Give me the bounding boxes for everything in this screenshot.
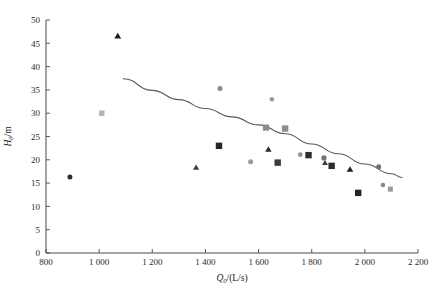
data-point-square: [216, 143, 222, 149]
data-point-circle: [67, 175, 72, 180]
data-point-circle: [248, 159, 253, 164]
axes: [46, 20, 418, 253]
y-tick-label: 10: [31, 202, 41, 212]
x-tick-label: 1 200: [142, 257, 163, 267]
x-tick-label: 2 200: [408, 257, 429, 267]
data-point-circle: [321, 155, 326, 160]
data-point-square: [282, 125, 288, 131]
data-point-square: [388, 187, 393, 192]
plot-area: 8001 0001 2001 4001 6001 8002 0002 200 0…: [0, 0, 434, 295]
x-tick-label: 1 600: [248, 257, 269, 267]
data-point-square: [328, 163, 334, 169]
data-point-square: [99, 111, 104, 116]
trend-curve: [123, 79, 402, 178]
x-axis-ticks: 8001 0001 2001 4001 6001 8002 0002 200: [39, 249, 428, 267]
y-axis-ticks: 05101520253035404550: [31, 15, 50, 258]
y-tick-label: 15: [31, 178, 41, 188]
y-tick-label: 25: [31, 132, 41, 142]
data-point-square: [275, 159, 281, 165]
y-tick-label: 40: [31, 62, 41, 72]
scatter-chart: 8001 0001 2001 4001 6001 8002 0002 200 0…: [0, 0, 434, 295]
y-tick-label: 35: [31, 85, 41, 95]
data-point-square: [263, 125, 269, 131]
series-square: [99, 111, 393, 197]
data-point-triangle: [265, 146, 271, 151]
x-tick-label: 1 400: [195, 257, 216, 267]
data-point-circle: [270, 97, 275, 102]
data-point-triangle: [347, 166, 354, 172]
x-tick-label: 800: [39, 257, 53, 267]
x-tick-label: 1 800: [302, 257, 323, 267]
x-tick-label: 1 000: [89, 257, 110, 267]
y-axis-title: H0/m: [3, 126, 14, 148]
y-tick-label: 5: [36, 225, 41, 235]
y-tick-label: 30: [31, 108, 41, 118]
data-point-triangle: [322, 160, 328, 165]
data-point-circle: [376, 164, 381, 169]
y-tick-label: 50: [31, 15, 41, 25]
data-point-triangle: [114, 33, 121, 39]
data-points: [67, 33, 392, 196]
data-point-circle: [298, 152, 303, 157]
data-point-square: [355, 190, 361, 196]
series-circle: [67, 86, 385, 187]
trendline: [123, 79, 402, 178]
y-tick-label: 45: [31, 39, 41, 49]
data-point-circle: [218, 86, 223, 91]
y-tick-label: 0: [36, 248, 41, 258]
data-point-square: [305, 152, 311, 158]
x-axis-title: Q0/(L/s): [216, 273, 247, 284]
y-tick-label: 20: [31, 155, 41, 165]
data-point-triangle: [193, 165, 199, 170]
data-point-circle: [381, 183, 386, 188]
series-triangle: [114, 33, 353, 172]
x-tick-label: 2 000: [355, 257, 376, 267]
